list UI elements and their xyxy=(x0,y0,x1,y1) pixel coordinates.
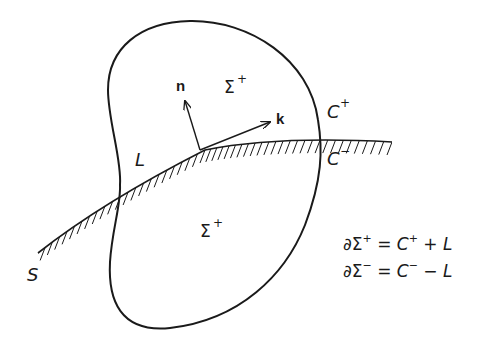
closed-boundary-curve xyxy=(108,21,321,329)
svg-text:Σ: Σ xyxy=(200,221,211,241)
svg-text:+: + xyxy=(237,72,247,86)
normal-vector-arrow xyxy=(185,101,200,150)
label-l: L xyxy=(135,149,145,170)
label-sigma-upper: Σ + xyxy=(224,72,247,97)
svg-text:C: C xyxy=(327,148,340,169)
label-c-minus: C − xyxy=(327,144,350,169)
label-n: n xyxy=(176,77,185,94)
label-sigma-lower: Σ + xyxy=(200,216,223,241)
diagram-canvas: n k Σ + Σ + C + C − L S ∂Σ+ = C+ + L ∂Σ−… xyxy=(0,0,480,342)
label-s: S xyxy=(27,264,38,285)
svg-text:−: − xyxy=(340,144,350,158)
label-k: k xyxy=(276,110,285,127)
svg-text:C: C xyxy=(327,101,340,122)
svg-text:∂Σ− = C− − L: ∂Σ− = C− − L xyxy=(343,259,452,281)
svg-text:Σ: Σ xyxy=(224,77,235,97)
svg-text:+: + xyxy=(340,96,350,110)
svg-text:+: + xyxy=(213,216,223,230)
svg-text:∂Σ+ = C+ + L: ∂Σ+ = C+ + L xyxy=(343,232,452,254)
equation-sigma-minus: ∂Σ− = C− − L xyxy=(343,259,452,281)
equation-sigma-plus: ∂Σ+ = C+ + L xyxy=(343,232,452,254)
label-c-plus: C + xyxy=(327,96,350,122)
